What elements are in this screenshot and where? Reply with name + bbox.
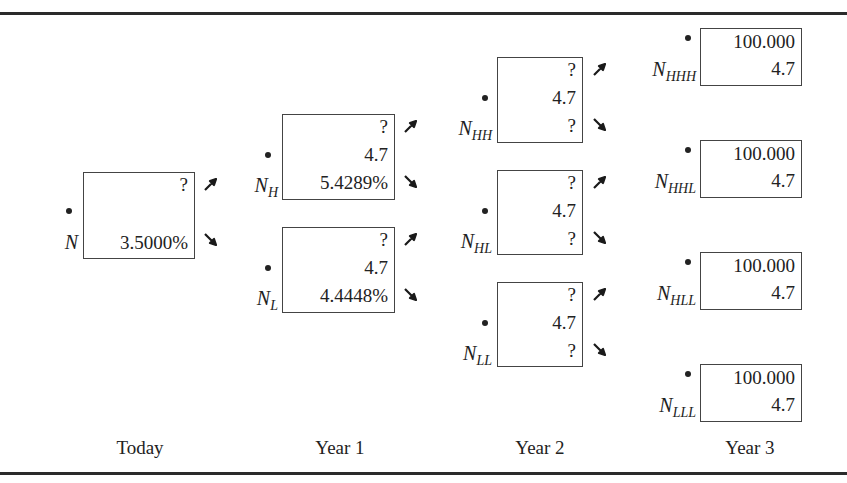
- node-label: N: [58, 231, 78, 261]
- node-price: ?: [380, 117, 388, 137]
- top-rule: [0, 12, 847, 15]
- node-box: 100.000 4.7: [700, 364, 802, 422]
- node-price: ?: [568, 285, 576, 305]
- node-box: ? 4.7 ?: [497, 170, 583, 255]
- node-label: NHLL: [630, 282, 696, 312]
- arrow-down-right-icon: [592, 117, 606, 131]
- node-box: ? 4.7 5.4289%: [282, 114, 395, 200]
- period-label-year-1: Year 1: [280, 437, 400, 459]
- node-price: 100.000: [733, 256, 795, 276]
- node-label: NLLL: [630, 394, 696, 424]
- node-cash-flow: 4.7: [552, 313, 576, 333]
- node-dot: [482, 208, 488, 214]
- arrow-up-right-icon: [403, 233, 417, 247]
- node-cash-flow: 4.7: [771, 59, 795, 79]
- bottom-rule: [0, 472, 847, 475]
- node-cash-flow: 4.7: [364, 145, 388, 165]
- node-cash-flow: 4.7: [552, 201, 576, 221]
- arrow-down-right-icon: [203, 232, 217, 246]
- node-price: ?: [568, 60, 576, 80]
- node-box: ? 4.7 ?: [497, 57, 583, 143]
- arrow-up-right-icon: [403, 120, 417, 134]
- node-rate: ?: [568, 116, 576, 136]
- period-label-year-2: Year 2: [480, 437, 600, 459]
- node-box: ? 4.7 4.4448%: [282, 227, 395, 313]
- node-price: 100.000: [733, 144, 795, 164]
- node-dot: [685, 147, 691, 153]
- node-rate: 4.4448%: [320, 286, 388, 306]
- node-dot: [66, 208, 72, 214]
- node-box: 100.000 4.7: [700, 252, 802, 310]
- node-label: NHHL: [630, 170, 696, 200]
- period-label-year-3: Year 3: [690, 437, 810, 459]
- node-box: ? 3.5000%: [83, 172, 195, 259]
- node-label: NH: [240, 174, 278, 204]
- node-box: 100.000 4.7: [700, 140, 802, 198]
- arrow-up-right-icon: [592, 63, 606, 77]
- arrow-down-right-icon: [403, 174, 417, 188]
- node-cash-flow: 4.7: [364, 258, 388, 278]
- node-price: 100.000: [733, 32, 795, 52]
- arrow-down-right-icon: [592, 342, 606, 356]
- node-rate: 3.5000%: [120, 233, 188, 253]
- node-dot: [265, 265, 271, 271]
- node-dot: [482, 95, 488, 101]
- node-dot: [685, 35, 691, 41]
- node-dot: [265, 152, 271, 158]
- node-box: 100.000 4.7: [700, 28, 802, 86]
- node-dot: [482, 320, 488, 326]
- arrow-up-right-icon: [592, 288, 606, 302]
- node-label: NHL: [440, 230, 492, 260]
- arrow-up-right-icon: [203, 178, 217, 192]
- node-cash-flow: 4.7: [552, 88, 576, 108]
- node-label: NLL: [440, 342, 492, 372]
- node-cash-flow: 4.7: [771, 395, 795, 415]
- node-cash-flow: 4.7: [771, 283, 795, 303]
- node-label: NL: [240, 287, 278, 317]
- node-price: ?: [380, 230, 388, 250]
- node-cash-flow: 4.7: [771, 171, 795, 191]
- node-box: ? 4.7 ?: [497, 282, 583, 367]
- node-dot: [685, 259, 691, 265]
- node-rate: ?: [568, 341, 576, 361]
- arrow-down-right-icon: [592, 230, 606, 244]
- node-price: ?: [180, 175, 188, 195]
- arrow-up-right-icon: [592, 176, 606, 190]
- node-dot: [685, 371, 691, 377]
- node-price: 100.000: [733, 368, 795, 388]
- node-rate: ?: [568, 229, 576, 249]
- period-label-today: Today: [80, 437, 200, 459]
- arrow-down-right-icon: [403, 287, 417, 301]
- node-label: NHH: [440, 117, 492, 147]
- node-label: NHHH: [630, 58, 696, 88]
- node-rate: 5.4289%: [320, 173, 388, 193]
- node-price: ?: [568, 173, 576, 193]
